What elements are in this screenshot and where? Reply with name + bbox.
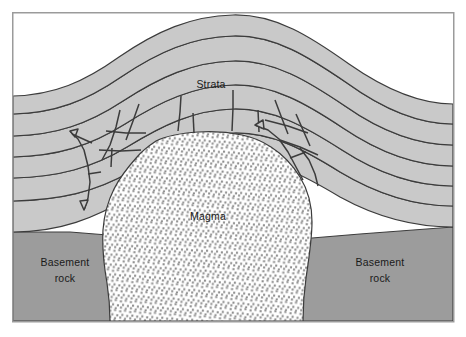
basement-rock-label-left-line1: Basement [41, 256, 90, 268]
fracture-left-joint-5 [111, 148, 112, 167]
fracture-crest-joint-4 [258, 110, 259, 132]
cross-section-diagram: Strata Magma Basement rock Basement rock [0, 0, 466, 337]
fracture-crest-joint-3 [193, 113, 194, 133]
geology-figure: Strata Magma Basement rock Basement rock [0, 0, 466, 337]
basement-rock-label-left-line2: rock [55, 272, 76, 284]
magma-body [103, 132, 312, 321]
magma-label: Magma [190, 210, 226, 222]
strata-label: Strata [196, 78, 225, 90]
basement-rock-label-right-line1: Basement [356, 256, 405, 268]
basement-rock-label-right-line2: rock [370, 272, 391, 284]
